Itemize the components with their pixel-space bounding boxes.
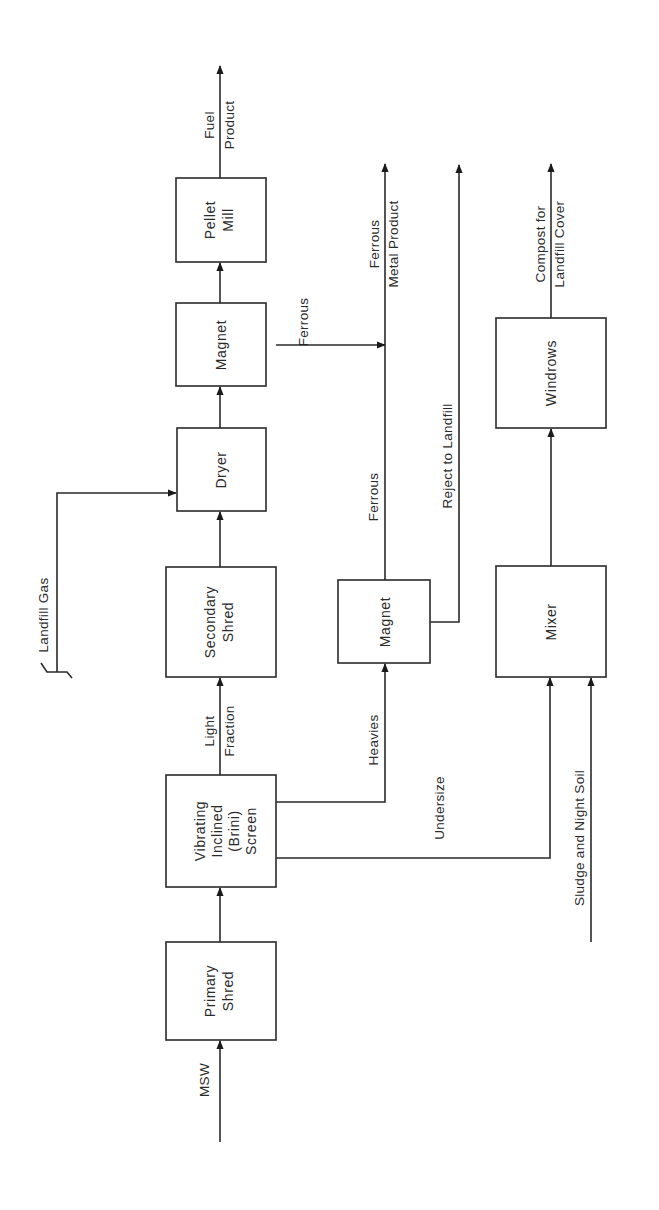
secondary-shred-label-2: Shred [220, 602, 236, 642]
reject-to-landfill-label: Reject to Landfill [440, 403, 455, 508]
node-primary-shred: Primary Shred [166, 942, 276, 1040]
node-vibrating-screen: Vibrating Inclined (Brini) Screen [166, 775, 276, 887]
ferrous-heavies-label: Ferrous [366, 473, 381, 522]
landfill-gas-arrow [57, 493, 176, 672]
compost-label-2: Landfill Cover [552, 200, 567, 287]
primary-shred-label-2: Shred [220, 971, 236, 1011]
undersize-label: Undersize [432, 776, 447, 839]
landfill-gas-label: Landfill Gas [36, 578, 51, 653]
magnet-heavies-label: Magnet [377, 597, 393, 647]
node-windrows: Windrows [496, 318, 606, 428]
msw-label: MSW [197, 1063, 212, 1097]
light-fraction-label-1: Light [202, 716, 217, 747]
pellet-mill-label-2: Mill [220, 208, 236, 231]
reject-to-landfill-arrow [430, 165, 459, 622]
dryer-label: Dryer [213, 451, 229, 488]
compost-label-1: Compost for [533, 205, 548, 282]
node-pellet-mill: Pellet Mill [176, 178, 266, 262]
mixer-label: Mixer [543, 603, 559, 640]
ferrous-metal-product-label-1: Ferrous [367, 220, 382, 269]
fuel-product-label-2: Product [222, 101, 237, 150]
ferrous-metal-product-label-2: Metal Product [386, 200, 401, 287]
ferrous-top-label: Ferrous [296, 298, 311, 347]
screen-label-3: (Brini) [226, 810, 242, 852]
screen-label-1: Vibrating [192, 801, 208, 861]
magnet-top-label: Magnet [213, 320, 229, 370]
node-magnet-heavies: Magnet [338, 580, 430, 663]
secondary-shred-label-1: Secondary [202, 586, 218, 658]
screen-label-4: Screen [243, 807, 259, 855]
primary-shred-label-1: Primary [202, 965, 218, 1017]
screen-label-2: Inclined [209, 804, 225, 857]
node-magnet-top: Magnet [176, 303, 266, 386]
node-secondary-shred: Secondary Shred [166, 567, 276, 677]
windrows-label: Windrows [543, 340, 559, 406]
pellet-mill-label-1: Pellet [202, 201, 218, 240]
node-dryer: Dryer [177, 428, 266, 511]
heavies-label: Heavies [366, 715, 381, 766]
sludge-label: Sludge and Night Soil [572, 770, 587, 906]
undersize-arrow [276, 678, 550, 858]
light-fraction-label-2: Fraction [222, 705, 237, 756]
process-flow-diagram: Primary Shred Vibrating Inclined (Brini)… [0, 0, 659, 1210]
fuel-product-label-1: Fuel [202, 111, 217, 138]
node-mixer: Mixer [496, 566, 606, 677]
